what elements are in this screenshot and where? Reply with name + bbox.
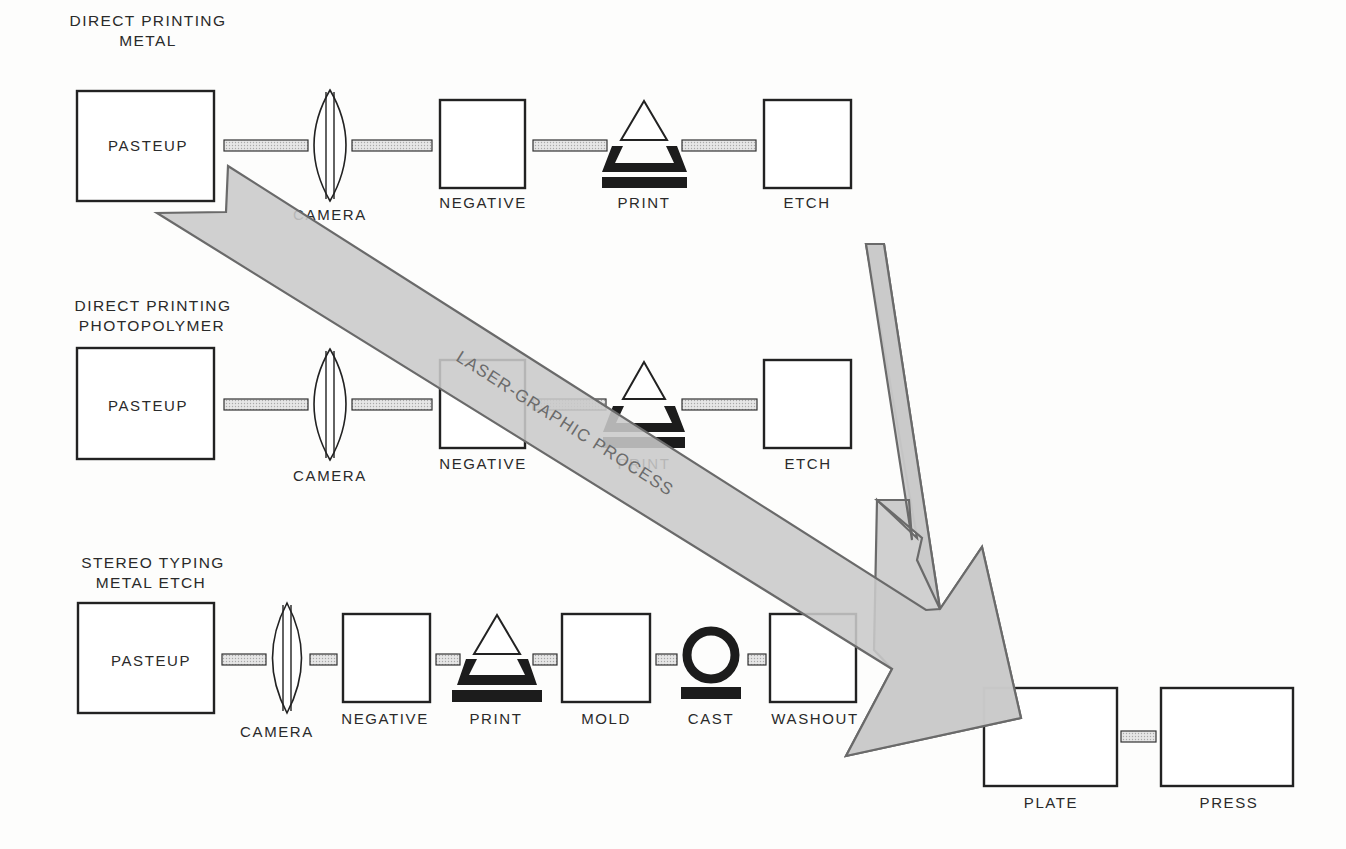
step-etch: ETCH: [764, 100, 851, 211]
step-pasteup: PASTEUP: [77, 348, 214, 459]
step-camera: CAMERA: [293, 90, 367, 223]
connector: [533, 654, 557, 665]
step-label: CAMERA: [240, 723, 314, 740]
print-icon: [602, 101, 687, 188]
connector: [682, 140, 756, 151]
step-camera: CAMERA: [240, 603, 314, 740]
step-label: CAST: [688, 710, 734, 727]
step-label: MOLD: [581, 710, 631, 727]
connector: [222, 654, 266, 665]
row-title-line1: DIRECT PRINTING: [75, 297, 232, 314]
negative-box: [440, 100, 525, 188]
step-label: ETCH: [783, 194, 830, 211]
step-pasteup: PASTEUP: [78, 603, 214, 713]
step-pasteup: PASTEUP: [77, 91, 214, 201]
step-label: CAMERA: [293, 467, 367, 484]
step-cast: CAST: [681, 631, 741, 727]
press-box: [1161, 688, 1293, 786]
step-label: PRESS: [1200, 794, 1259, 811]
row-title-line1: STEREO TYPING: [81, 554, 225, 571]
camera-lens-icon: [314, 349, 346, 460]
row-direct-printing-metal: DIRECT PRINTING METAL PASTEUP CAMERA NEG…: [70, 12, 851, 223]
etch-box: [764, 100, 851, 188]
camera-lens-icon: [273, 603, 302, 713]
step-label: PASTEUP: [111, 652, 191, 669]
step-label: NEGATIVE: [439, 194, 527, 211]
step-label: NEGATIVE: [341, 710, 429, 727]
step-camera: CAMERA: [293, 349, 367, 484]
connector: [682, 399, 757, 410]
step-label: PLATE: [1024, 794, 1078, 811]
connector: [436, 654, 460, 665]
step-etch: ETCH: [764, 360, 851, 472]
connector: [352, 140, 432, 151]
step-label: PASTEUP: [108, 137, 188, 154]
step-label: PRINT: [618, 194, 671, 211]
connector: [533, 140, 607, 151]
connector: [310, 654, 337, 665]
negative-box: [343, 614, 430, 702]
connector: [352, 399, 432, 410]
row-title-line1: DIRECT PRINTING: [70, 12, 227, 29]
final-steps: PLATE PRESS: [984, 688, 1293, 811]
row-stereo-typing-metal-etch: STEREO TYPING METAL ETCH PASTEUP CAMERA …: [78, 554, 859, 740]
cast-icon: [681, 631, 741, 699]
step-label: ETCH: [784, 455, 831, 472]
print-icon: [452, 615, 542, 702]
row-title-line2: PHOTOPOLYMER: [79, 317, 225, 334]
connector: [748, 654, 766, 665]
step-mold: MOLD: [562, 614, 650, 727]
connector: [224, 399, 308, 410]
step-label: PRINT: [470, 710, 523, 727]
step-label: WASHOUT: [771, 710, 858, 727]
etch-box: [764, 360, 851, 448]
step-label: PASTEUP: [108, 397, 188, 414]
connector: [1121, 731, 1156, 742]
connector: [656, 654, 677, 665]
step-negative: NEGATIVE: [439, 100, 527, 211]
camera-lens-icon: [314, 90, 346, 201]
process-diagram: DIRECT PRINTING METAL PASTEUP CAMERA NEG…: [0, 0, 1346, 849]
step-press: PRESS: [1161, 688, 1293, 811]
step-print: PRINT: [452, 615, 542, 727]
step-print: PRINT: [602, 101, 687, 211]
mold-box: [562, 614, 650, 702]
row-title-line2: METAL ETCH: [96, 574, 206, 591]
connector: [224, 140, 308, 151]
row-title-line2: METAL: [119, 32, 177, 49]
step-label: NEGATIVE: [439, 455, 527, 472]
step-negative: NEGATIVE: [341, 614, 430, 727]
